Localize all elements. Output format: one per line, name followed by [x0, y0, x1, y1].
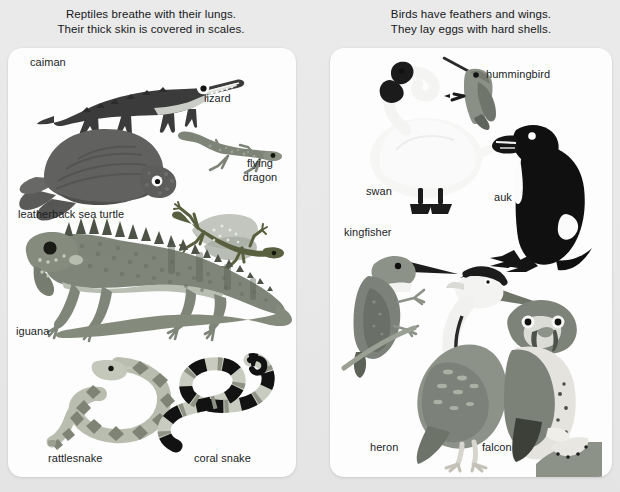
reptiles-headline-line1: Reptiles breathe with their lungs. [8, 7, 294, 22]
birds-headline-line2: They lay eggs with hard shells. [330, 22, 612, 37]
label-flying-dragon: flyingdragon [230, 156, 290, 184]
label-flying-dragon-line1: flying [247, 157, 273, 169]
label-heron: heron [370, 441, 398, 453]
birds-headline-line1: Birds have feathers and wings. [330, 7, 612, 22]
reptiles-headline: Reptiles breathe with their lungs. Their… [8, 7, 294, 37]
label-hummingbird: hummingbird [486, 68, 550, 80]
illustrated-reference-page: Reptiles breathe with their lungs. Their… [0, 0, 620, 492]
coral-snake-illustration [154, 344, 288, 456]
reptiles-panel: caiman [8, 48, 296, 477]
birds-panel: swan hummingbird [330, 48, 612, 477]
label-falcon: falcon [482, 441, 512, 453]
label-iguana: iguana [16, 325, 49, 337]
iguana-illustration [18, 216, 294, 351]
label-rattlesnake: rattlesnake [48, 452, 102, 464]
label-swan: swan [366, 185, 392, 197]
reptiles-headline-line2: Their thick skin is covered in scales. [8, 22, 294, 37]
label-flying-dragon-line2: dragon [243, 171, 278, 183]
birds-headline: Birds have feathers and wings. They lay … [330, 7, 612, 37]
label-lizard: lizard [204, 92, 231, 104]
label-auk: auk [494, 191, 512, 203]
label-coral-snake: coral snake [194, 452, 251, 464]
label-kingfisher: kingfisher [344, 226, 392, 238]
label-caiman: caiman [30, 56, 66, 68]
